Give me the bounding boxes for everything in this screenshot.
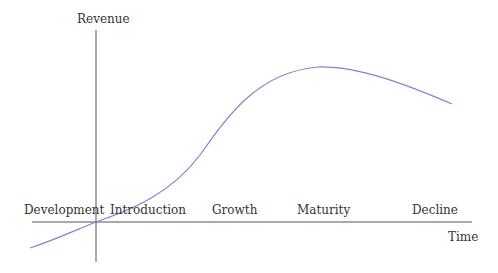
stage-maturity: Maturity [297,203,350,217]
revenue-curve [30,67,452,248]
stage-decline: Decline [412,203,458,217]
life-cycle-diagram [0,0,498,273]
x-axis-label: Time [448,230,478,244]
y-axis-label: Revenue [77,12,130,26]
stage-introduction: Introduction [110,203,186,217]
stage-growth: Growth [212,203,257,217]
stage-development: Development [24,203,104,217]
